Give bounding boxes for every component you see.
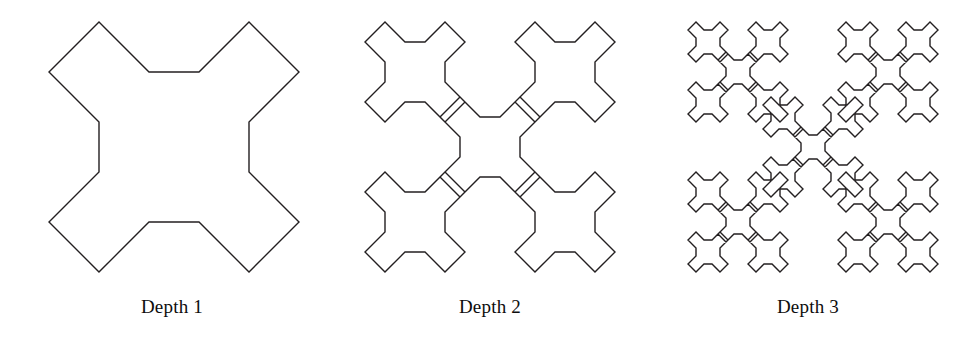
panel-depth-3: Depth 3 [658, 14, 958, 318]
caption-depth-1: Depth 1 [141, 296, 203, 318]
cross-fractal-depth-2 [361, 14, 619, 280]
caption-depth-3: Depth 3 [777, 296, 839, 318]
cross-fractal-outline [688, 22, 938, 272]
cross-fractal-depth-2-art [361, 14, 619, 280]
cross-fractal-depth-3 [684, 14, 942, 280]
panel-depth-1: Depth 1 [22, 14, 322, 318]
panel-row: Depth 1 Depth 2 Depth 3 [0, 0, 980, 318]
figure-cross-fractal-depths: Depth 1 Depth 2 Depth 3 [0, 0, 980, 358]
cross-fractal-depth-1 [45, 14, 303, 280]
caption-depth-2: Depth 2 [459, 296, 521, 318]
cross-fractal-depth-1-art [45, 14, 303, 280]
cross-fractal-outline [49, 22, 299, 272]
panel-depth-2: Depth 2 [340, 14, 640, 318]
cross-fractal-outline [365, 22, 615, 272]
cross-fractal-depth-3-art [684, 14, 942, 280]
